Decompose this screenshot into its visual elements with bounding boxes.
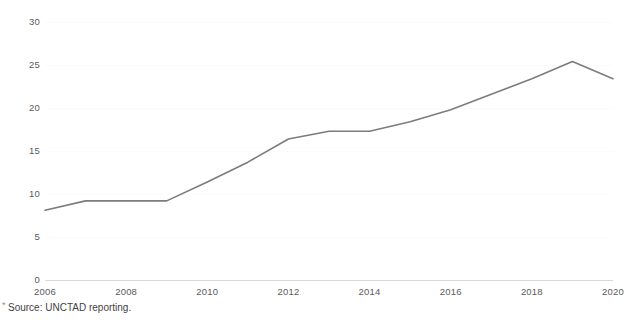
footnote-marker: *	[2, 300, 6, 310]
series-line	[45, 62, 613, 211]
chart-container: 051015202530 200620082010201220142016201…	[0, 0, 641, 320]
series-layer	[0, 0, 641, 320]
source-note: Source: UNCTAD reporting.	[8, 301, 131, 314]
